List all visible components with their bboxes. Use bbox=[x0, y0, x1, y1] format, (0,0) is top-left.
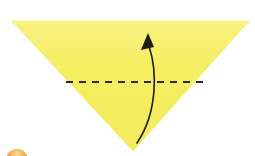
origami-diagram-svg bbox=[0, 0, 255, 156]
paper-top-edge bbox=[12, 21, 249, 24]
origami-diagram-canvas: A yellow triangle of folded paper pointi… bbox=[0, 0, 255, 156]
